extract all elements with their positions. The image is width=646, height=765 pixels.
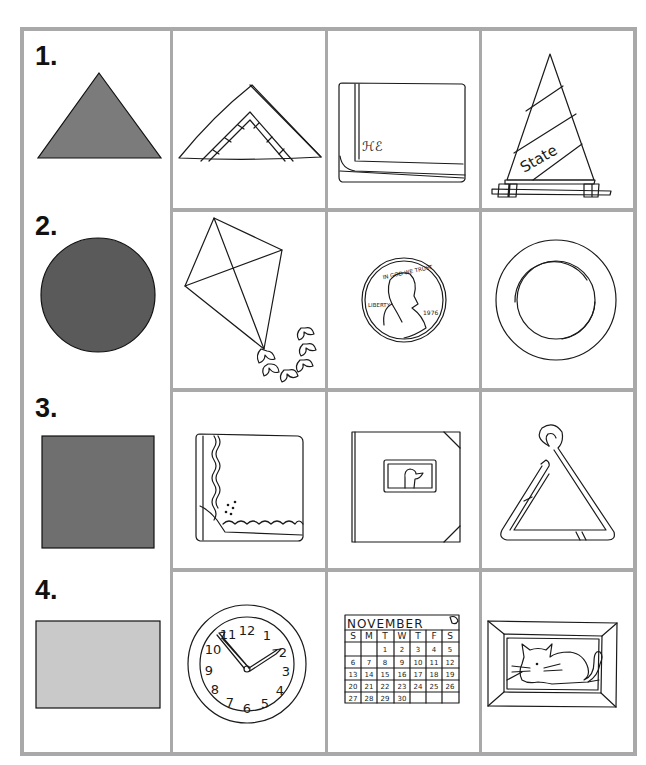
svg-text:S: S [350,631,356,641]
sailboat-sail-icon: State [482,31,633,208]
svg-text:15: 15 [381,671,390,679]
svg-text:22: 22 [381,683,390,691]
penny-motto: IN GOD WE TRUST [382,264,434,281]
photo-album-icon [328,392,479,568]
svg-text:8: 8 [211,682,219,697]
svg-text:9: 9 [400,659,404,667]
svg-text:27: 27 [349,695,358,703]
svg-text:8: 8 [383,659,387,667]
calendar-weekdays: S M T W T F S [350,631,453,641]
svg-text:7: 7 [226,695,234,710]
picture-penny[interactable]: IN GOD WE TRUST LIBERTY 1976 [328,212,479,388]
svg-text:10: 10 [414,659,423,667]
svg-text:S: S [447,631,453,641]
row-1-shape-cell: 1. [24,31,170,211]
calendar-days: 1 2 3 4 5 6 7 8 9 10 11 12 13 14 15 16 1… [349,646,455,703]
penny-liberty: LIBERTY [368,302,391,308]
monogram-text: ℋℰ [362,139,383,154]
picture-wall-clock[interactable]: 12 1 2 3 4 5 6 7 8 9 10 11 [173,572,325,752]
plate-icon [482,212,633,388]
svg-text:T: T [381,631,388,641]
rectangle-shape [24,571,170,752]
svg-text:25: 25 [430,683,439,691]
triangle-shape [24,31,170,211]
row-4-shape-cell: 4. [24,571,170,752]
svg-text:14: 14 [365,671,374,679]
svg-text:26: 26 [446,683,455,691]
picture-musical-triangle[interactable] [482,392,633,568]
svg-text:16: 16 [398,671,407,679]
framed-cat-picture-icon [482,572,633,752]
picture-handkerchief[interactable] [173,392,325,568]
svg-text:1: 1 [383,646,387,654]
svg-text:9: 9 [205,663,213,678]
svg-text:F: F [431,631,436,641]
penny-icon: IN GOD WE TRUST LIBERTY 1976 [328,212,479,388]
svg-text:30: 30 [398,695,407,703]
svg-text:20: 20 [349,683,358,691]
svg-text:12: 12 [446,659,455,667]
picture-plate[interactable] [482,212,633,388]
penny-year: 1976 [423,309,438,316]
calendar-icon: NOVEMBER S M T W T F S 1 2 3 4 5 6 7 8 9… [328,572,479,752]
picture-calendar[interactable]: NOVEMBER S M T W T F S 1 2 3 4 5 6 7 8 9… [328,572,479,752]
svg-text:4: 4 [276,683,284,698]
picture-sailboat-sail[interactable]: State [482,31,633,208]
musical-triangle-icon [482,392,633,568]
svg-text:2: 2 [279,645,287,660]
svg-text:28: 28 [365,695,374,703]
svg-text:4: 4 [432,646,437,654]
svg-text:18: 18 [430,671,439,679]
clock-numerals: 12 1 2 3 4 5 6 7 8 9 10 11 [205,623,290,716]
svg-text:W: W [398,631,407,641]
folded-handkerchief-icon: ℋℰ [328,31,479,208]
svg-text:24: 24 [414,683,423,691]
svg-text:6: 6 [243,701,251,716]
row-3-shape-cell: 3. [24,391,170,571]
svg-text:6: 6 [351,659,356,667]
svg-text:M: M [365,631,373,641]
svg-text:12: 12 [239,623,256,638]
kite-icon [173,212,325,388]
circle-shape [24,211,170,391]
svg-text:11: 11 [220,627,237,642]
svg-text:29: 29 [381,695,390,703]
svg-text:10: 10 [205,642,222,657]
shape-matching-worksheet: 1. ℋℰ State [20,27,637,756]
svg-text:2: 2 [400,646,404,654]
wall-clock-icon: 12 1 2 3 4 5 6 7 8 9 10 11 [173,572,325,752]
picture-photo-album[interactable] [328,392,479,568]
svg-text:3: 3 [416,646,420,654]
picture-framed-cat[interactable] [482,572,633,752]
row-2-shape-cell: 2. [24,211,170,391]
picture-kite[interactable] [173,212,325,388]
svg-text:5: 5 [261,696,269,711]
square-shape [24,391,170,571]
folded-napkin-icon [173,31,325,208]
svg-text:19: 19 [446,671,455,679]
picture-folded-handkerchief[interactable]: ℋℰ [328,31,479,208]
svg-text:21: 21 [365,683,374,691]
svg-text:23: 23 [398,683,407,691]
svg-text:1: 1 [263,628,271,643]
svg-text:11: 11 [430,659,439,667]
svg-text:17: 17 [414,671,423,679]
svg-text:T: T [414,631,421,641]
picture-folded-napkin[interactable] [173,31,325,208]
svg-text:3: 3 [282,664,290,679]
svg-text:5: 5 [448,646,452,654]
svg-text:13: 13 [349,671,358,679]
handkerchief-icon [173,392,325,568]
calendar-month: NOVEMBER [347,617,424,631]
svg-text:7: 7 [367,659,371,667]
